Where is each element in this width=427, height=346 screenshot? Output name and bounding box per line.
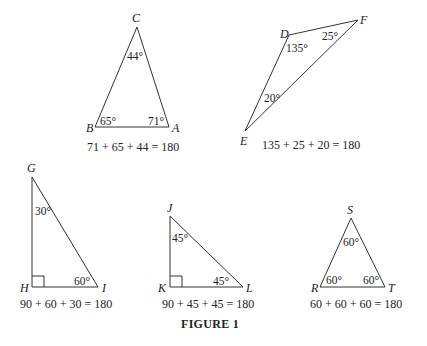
vertex-a-label: A — [171, 121, 180, 135]
triangle-abc: C B A 44° 65° 71° 71 + 65 + 44 = 180 — [86, 11, 180, 154]
vertex-k-label: K — [157, 281, 167, 295]
angle-d-label: 135° — [286, 42, 308, 54]
vertex-i-label: I — [101, 281, 107, 295]
vertex-e-label: E — [239, 134, 248, 148]
right-angle-marker-k — [170, 276, 182, 287]
triangle-ghi-shape — [32, 177, 98, 287]
vertex-g-label: G — [27, 161, 36, 175]
angle-g-label: 30° — [35, 205, 52, 217]
vertex-c-label: C — [132, 11, 141, 25]
angle-l-label: 45° — [213, 275, 230, 287]
vertex-s-label: S — [347, 203, 353, 217]
figure-caption: FIGURE 1 — [181, 317, 239, 331]
angle-f-label: 25° — [322, 30, 339, 42]
vertex-j-label: J — [167, 201, 173, 215]
angle-e-label: 20° — [264, 92, 281, 104]
angle-t-label: 60° — [363, 274, 380, 286]
triangle-ghi: G H I 30° 60° 90 + 60 + 30 = 180 — [19, 161, 112, 311]
vertex-t-label: T — [388, 281, 396, 295]
vertex-f-label: F — [359, 13, 368, 27]
vertex-h-label: H — [19, 281, 30, 295]
equation-jkl: 90 + 45 + 45 = 180 — [162, 297, 254, 311]
triangle-def-shape — [245, 20, 358, 131]
angle-r-label: 60° — [326, 274, 343, 286]
triangle-jkl: J K L 45° 45° 90 + 45 + 45 = 180 — [157, 201, 254, 311]
right-angle-marker-h — [32, 276, 44, 287]
triangle-def: D F E 135° 25° 20° 135 + 25 + 20 = 180 — [239, 13, 368, 152]
vertex-l-label: L — [245, 281, 253, 295]
angle-b-label: 65° — [100, 115, 117, 127]
vertex-b-label: B — [86, 121, 94, 135]
equation-def: 135 + 25 + 20 = 180 — [262, 138, 360, 152]
angle-c-label: 44° — [127, 50, 144, 62]
vertex-r-label: R — [310, 281, 319, 295]
angle-i-label: 60° — [74, 275, 91, 287]
figure-1-diagram: C B A 44° 65° 71° 71 + 65 + 44 = 180 D F… — [0, 0, 427, 346]
equation-abc: 71 + 65 + 44 = 180 — [87, 140, 179, 154]
triangle-abc-shape — [95, 27, 169, 127]
angle-a-label: 71° — [148, 115, 165, 127]
angle-j-label: 45° — [172, 232, 189, 244]
angle-s-label: 60° — [343, 236, 360, 248]
equation-rst: 60 + 60 + 60 = 180 — [310, 297, 402, 311]
triangle-rst: S R T 60° 60° 60° 60 + 60 + 60 = 180 — [310, 203, 402, 311]
equation-ghi: 90 + 60 + 30 = 180 — [20, 297, 112, 311]
vertex-d-label: D — [279, 27, 289, 41]
